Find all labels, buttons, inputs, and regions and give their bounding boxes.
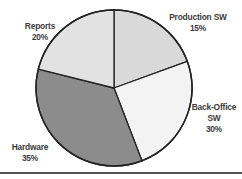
- label-back-office-sw-name-1: Back-Office: [189, 101, 238, 112]
- label-back-office-sw-name-2: SW: [189, 112, 238, 123]
- label-hardware-value: 35%: [7, 152, 53, 163]
- label-production-sw-value: 15%: [163, 22, 233, 33]
- bottom-divider: [0, 172, 242, 174]
- label-hardware-name: Hardware: [7, 141, 53, 152]
- label-production-sw: Production SW 15%: [163, 11, 233, 33]
- label-reports: Reports 20%: [21, 20, 60, 42]
- label-back-office-sw: Back-Office SW 30%: [189, 101, 238, 134]
- label-production-sw-name: Production SW: [163, 11, 233, 22]
- label-reports-name: Reports: [21, 20, 60, 31]
- label-reports-value: 20%: [21, 31, 60, 42]
- label-hardware: Hardware 35%: [7, 141, 53, 163]
- label-back-office-sw-value: 30%: [189, 123, 238, 134]
